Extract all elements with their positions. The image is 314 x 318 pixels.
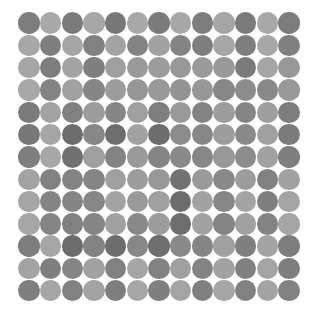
- circle-marker: [257, 35, 278, 56]
- circle-marker: [18, 213, 39, 234]
- heatmap-cell: [40, 79, 62, 101]
- circle-marker: [105, 124, 126, 145]
- heatmap-cell: [278, 190, 300, 212]
- circle-marker: [148, 146, 169, 167]
- circle-marker: [257, 235, 278, 256]
- circle-marker: [127, 12, 148, 33]
- circle-marker: [278, 102, 299, 123]
- heatmap-cell: [235, 190, 257, 212]
- heatmap-cell: [18, 34, 40, 56]
- heatmap-cell: [61, 190, 83, 212]
- heatmap-cell: [278, 12, 300, 34]
- heatmap-cell: [126, 123, 148, 145]
- heatmap-cell: [40, 123, 62, 145]
- heatmap-cell: [40, 190, 62, 212]
- circle-marker: [192, 213, 213, 234]
- circle-marker: [148, 213, 169, 234]
- heatmap-cell: [18, 257, 40, 279]
- circle-marker: [62, 146, 83, 167]
- heatmap-cell: [278, 79, 300, 101]
- circle-marker: [235, 102, 256, 123]
- circle-marker: [83, 280, 104, 301]
- heatmap-cell: [126, 12, 148, 34]
- heatmap-cell: [61, 257, 83, 279]
- circle-marker: [62, 57, 83, 78]
- circle-marker: [192, 79, 213, 100]
- circle-marker: [18, 280, 39, 301]
- heatmap-cell: [235, 12, 257, 34]
- heatmap-cell: [61, 146, 83, 168]
- heatmap-cell: [257, 190, 279, 212]
- circle-marker: [62, 191, 83, 212]
- circle-marker: [278, 191, 299, 212]
- heatmap-cell: [105, 280, 127, 302]
- circle-marker: [148, 102, 169, 123]
- heatmap-cell: [18, 168, 40, 190]
- circle-marker: [257, 213, 278, 234]
- circle-marker: [257, 79, 278, 100]
- circle-marker: [62, 213, 83, 234]
- circle-marker: [235, 280, 256, 301]
- heatmap-cell: [148, 57, 170, 79]
- circle-marker: [18, 235, 39, 256]
- heatmap-cell: [170, 168, 192, 190]
- heatmap-cell: [83, 280, 105, 302]
- circle-marker: [192, 57, 213, 78]
- heatmap-cell: [213, 79, 235, 101]
- circle-marker: [213, 191, 234, 212]
- heatmap-cell: [61, 213, 83, 235]
- heatmap-cell: [40, 168, 62, 190]
- heatmap-cell: [105, 168, 127, 190]
- heatmap-cell: [278, 34, 300, 56]
- circle-marker: [213, 213, 234, 234]
- heatmap-cell: [126, 190, 148, 212]
- circle-marker: [257, 124, 278, 145]
- circle-marker: [170, 258, 191, 279]
- heatmap-cell: [126, 213, 148, 235]
- heatmap-cell: [61, 57, 83, 79]
- heatmap-cell: [126, 168, 148, 190]
- circle-marker: [127, 258, 148, 279]
- heatmap-cell: [170, 190, 192, 212]
- heatmap-cell: [170, 57, 192, 79]
- heatmap-cell: [170, 280, 192, 302]
- heatmap-cell: [40, 280, 62, 302]
- heatmap-cell: [40, 57, 62, 79]
- heatmap-cell: [213, 146, 235, 168]
- heatmap-cell: [40, 12, 62, 34]
- circle-marker: [257, 57, 278, 78]
- circle-marker: [235, 79, 256, 100]
- circle-marker: [18, 35, 39, 56]
- heatmap-cell: [257, 101, 279, 123]
- heatmap-cell: [170, 123, 192, 145]
- heatmap-cell: [170, 79, 192, 101]
- circle-marker: [83, 79, 104, 100]
- heatmap-cell: [18, 235, 40, 257]
- heatmap-cell: [257, 79, 279, 101]
- heatmap-cell: [105, 101, 127, 123]
- heatmap-cell: [257, 34, 279, 56]
- heatmap-cell: [235, 34, 257, 56]
- heatmap-cell: [257, 280, 279, 302]
- heatmap-cell: [148, 146, 170, 168]
- circle-marker: [213, 124, 234, 145]
- heatmap-cell: [148, 235, 170, 257]
- circle-marker: [148, 280, 169, 301]
- heatmap-cell: [83, 123, 105, 145]
- circle-marker: [83, 235, 104, 256]
- heatmap-cell: [105, 12, 127, 34]
- circle-marker: [170, 235, 191, 256]
- circle-marker: [213, 79, 234, 100]
- circle-marker: [192, 280, 213, 301]
- heatmap-cell: [105, 57, 127, 79]
- circle-marker: [83, 213, 104, 234]
- heatmap-cell: [213, 123, 235, 145]
- circle-marker: [278, 213, 299, 234]
- heatmap-cell: [170, 146, 192, 168]
- circle-marker: [170, 102, 191, 123]
- heatmap-cell: [148, 190, 170, 212]
- heatmap-cell: [105, 257, 127, 279]
- heatmap-cell: [192, 34, 214, 56]
- heatmap-cell: [83, 235, 105, 257]
- circle-marker: [192, 146, 213, 167]
